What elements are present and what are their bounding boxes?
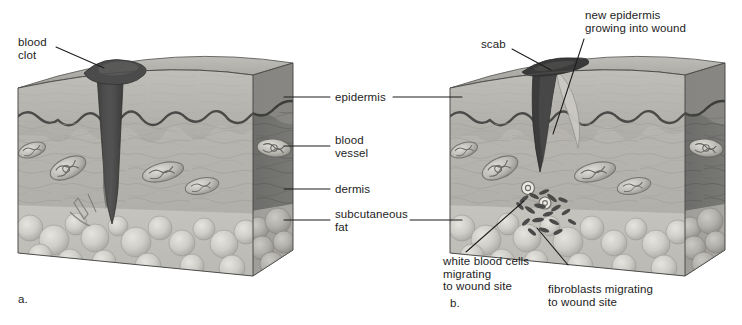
label-white-blood-cells: white blood cells migrating to wound sit… <box>443 255 529 293</box>
panel-caption-b: b. <box>450 297 460 309</box>
label-dermis: dermis <box>335 183 370 196</box>
figure-canvas: blood clot epidermis blood vessel dermis… <box>0 0 742 325</box>
panel-a-block <box>10 55 305 290</box>
leader-blood-clot <box>56 47 104 68</box>
label-subcutaneous-fat: subcutaneous fat <box>335 208 408 233</box>
panel-caption-a: a. <box>18 293 28 305</box>
label-blood-clot: blood clot <box>18 36 47 61</box>
label-blood-vessel: blood vessel <box>335 134 368 159</box>
label-epidermis: epidermis <box>335 91 386 104</box>
label-new-epidermis: new epidermis growing into wound <box>585 9 686 34</box>
skin-wound-diagram-artwork <box>0 0 742 325</box>
label-fibroblasts: fibroblasts migrating to wound site <box>548 283 653 308</box>
label-scab: scab <box>481 38 506 51</box>
